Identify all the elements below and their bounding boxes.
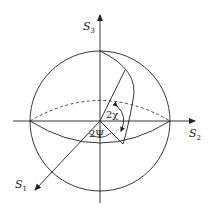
s2-label: S2 (189, 127, 201, 142)
s1-label: S1 (15, 178, 27, 193)
s3-label: S3 (83, 20, 95, 35)
poincare-sphere-diagram: S3 S2 S1 2χ 2Ψ (0, 0, 212, 216)
two-chi-label: 2χ (106, 109, 118, 120)
meridian-arc (100, 51, 134, 144)
two-psi-label: 2Ψ (89, 128, 104, 139)
